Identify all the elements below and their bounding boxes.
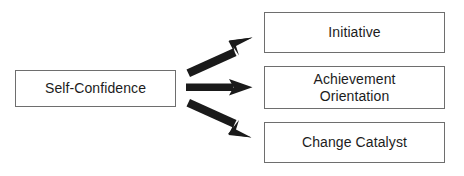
diagram-canvas: Self-Confidence Initiative Achievement O… <box>0 0 464 176</box>
node-achievement-orientation[interactable]: Achievement Orientation <box>264 66 445 109</box>
node-change-catalyst[interactable]: Change Catalyst <box>264 122 445 163</box>
node-achievement-orientation-label: Achievement Orientation <box>313 71 395 105</box>
node-initiative-label: Initiative <box>328 24 380 41</box>
arrow-to-achievement-orientation <box>186 79 253 95</box>
node-initiative[interactable]: Initiative <box>264 12 445 53</box>
arrow-to-change-catalyst <box>187 99 252 138</box>
node-change-catalyst-label: Change Catalyst <box>302 134 407 151</box>
arrow-to-initiative <box>187 38 253 78</box>
